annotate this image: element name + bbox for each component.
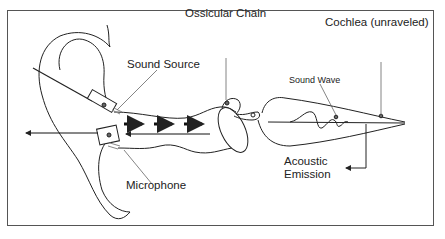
pinna-outline — [39, 25, 130, 219]
leader-lines — [117, 58, 381, 184]
emission-connector — [346, 124, 366, 168]
label-sound-source: Sound Source — [127, 58, 200, 70]
label-acoustic-emission-line2: Emission — [284, 168, 331, 181]
cochlea — [258, 98, 405, 146]
ear-canal — [114, 107, 236, 153]
label-acoustic-emission: Acoustic Emission — [284, 155, 331, 181]
label-microphone: Microphone — [126, 179, 186, 191]
label-sound-wave: Sound Wave — [289, 75, 340, 85]
ear-diagram — [0, 0, 445, 239]
label-acoustic-emission-line1: Acoustic — [284, 155, 331, 168]
label-ossicular-chain: Ossicular Chain — [185, 7, 266, 19]
label-cochlea: Cochlea (unraveled) — [325, 16, 429, 28]
